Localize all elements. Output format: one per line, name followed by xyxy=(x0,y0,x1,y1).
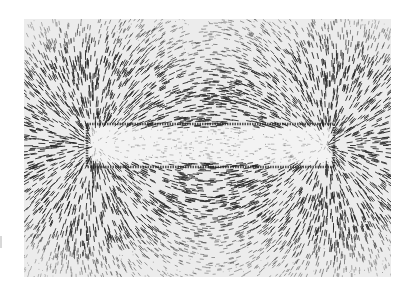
edge-mark xyxy=(0,236,2,248)
magnetic-field-lines xyxy=(24,19,391,277)
iron-filings-photo xyxy=(24,19,391,277)
